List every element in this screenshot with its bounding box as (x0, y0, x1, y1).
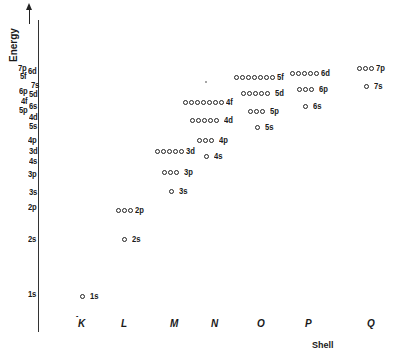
orbital-circle-icon (122, 237, 127, 242)
orbital-group-6s: 6s (303, 101, 323, 111)
orbital-circle-icon (116, 208, 121, 213)
orbital-circle-icon (248, 109, 253, 114)
y-tick-label: 6s (29, 102, 37, 111)
orbital-circle-icon (168, 170, 173, 175)
orbital-circle-icon (297, 87, 302, 92)
orbital-label: 6p (319, 84, 328, 94)
y-tick-label: 6d (28, 67, 36, 76)
orbital-group-6d: 6d (290, 68, 332, 78)
orbital-circle-icon (197, 138, 202, 143)
orbital-circle-icon (303, 87, 308, 92)
orbital-circle-icon (173, 149, 178, 154)
orbital-circle-icon (196, 118, 201, 123)
orbital-group-1s: 1s (80, 291, 100, 301)
orbital-group-4f: 4f (183, 97, 234, 107)
orbital-circle-icon (308, 71, 313, 76)
shell-label-N: N (211, 318, 218, 329)
orbital-circle-icon (202, 118, 207, 123)
orbital-label: 7p (376, 63, 385, 73)
orbital-circle-icon (167, 149, 172, 154)
orbital-circle-icon (122, 208, 127, 213)
orbital-label: 4d (224, 115, 233, 125)
orbital-label: 3s (179, 186, 188, 196)
orbital-circle-icon (204, 154, 209, 159)
orbital-circle-icon (303, 104, 308, 109)
orbital-group-5p: 5p (248, 106, 281, 116)
orbital-circle-icon (190, 118, 195, 123)
orbital-circle-icon (128, 208, 133, 213)
orbital-label: 4f (226, 97, 233, 107)
y-tick-label: 4p (28, 136, 36, 145)
orbital-label: 6d (321, 68, 330, 78)
orbital-label: 5s (265, 122, 274, 132)
orbital-group-4p: 4p (197, 135, 230, 145)
orbital-circle-icon (265, 91, 270, 96)
orbital-label: 4p (219, 135, 228, 145)
orbital-group-5d: 5d (241, 88, 286, 98)
orbital-circle-icon (247, 91, 252, 96)
orbital-circle-icon (161, 149, 166, 154)
orbital-circle-icon (270, 75, 275, 80)
orbital-circle-icon (189, 100, 194, 105)
energy-arrow-shaft (29, 8, 30, 24)
orbital-group-3s: 3s (169, 186, 189, 196)
orbital-group-6p: 6p (297, 84, 330, 94)
orbital-label: 2p (135, 205, 144, 215)
y-tick-label: 5s (29, 122, 37, 131)
orbital-circle-icon (357, 66, 362, 71)
orbital-group-3p: 3p (162, 167, 195, 177)
y-axis-line (38, 20, 39, 332)
orbital-circle-icon (241, 91, 246, 96)
orbital-circle-icon (234, 75, 239, 80)
orbital-label: 7s (374, 81, 383, 91)
y-axis-label: Energy (8, 28, 19, 62)
y-tick-label: 2p (28, 203, 36, 212)
orbital-circle-icon (209, 138, 214, 143)
shell-label-O: O (257, 318, 265, 329)
orbital-circle-icon (253, 91, 258, 96)
orbital-label: 1s (90, 291, 99, 301)
y-tick-label: 5p (19, 106, 27, 115)
orbital-group-7s: 7s (364, 81, 384, 91)
orbital-label: 5p (270, 106, 279, 116)
orbital-circle-icon (207, 100, 212, 105)
y-tick-label: 1s (28, 290, 36, 299)
orbital-circle-icon (155, 149, 160, 154)
orbital-group-2p: 2p (116, 205, 146, 215)
y-tick-label: 2s (28, 235, 36, 244)
orbital-group-7p: 7p (357, 63, 387, 73)
stray-dot (205, 81, 207, 83)
orbital-circle-icon (302, 71, 307, 76)
orbital-circle-icon (309, 87, 314, 92)
shell-label-K: K (78, 318, 85, 329)
orbital-circle-icon (169, 189, 174, 194)
orbital-label: 5f (277, 72, 284, 82)
orbital-circle-icon (296, 71, 301, 76)
orbital-group-5f: 5f (234, 72, 285, 82)
orbital-circle-icon (258, 75, 263, 80)
orbital-circle-icon (203, 138, 208, 143)
orbital-circle-icon (290, 71, 295, 76)
orbital-circle-icon (314, 71, 319, 76)
orbital-circle-icon (369, 66, 374, 71)
orbital-circle-icon (179, 149, 184, 154)
orbital-group-3d: 3d (155, 146, 197, 156)
shell-label-L: L (121, 318, 127, 329)
y-tick-label: 4s (29, 157, 37, 166)
orbital-circle-icon (260, 109, 265, 114)
orbital-label: 3p (184, 167, 193, 177)
orbital-circle-icon (363, 66, 368, 71)
orbital-circle-icon (254, 109, 259, 114)
orbital-circle-icon (183, 100, 188, 105)
shell-label-Q: Q (367, 318, 375, 329)
orbital-circle-icon (219, 100, 224, 105)
y-tick-label: 3d (29, 147, 37, 156)
orbital-circle-icon (255, 125, 260, 130)
orbital-label: 5d (275, 88, 284, 98)
orbital-circle-icon (246, 75, 251, 80)
orbital-group-4d: 4d (190, 115, 235, 125)
orbital-circle-icon (252, 75, 257, 80)
orbital-circle-icon (80, 294, 85, 299)
y-tick-label: 3s (29, 188, 37, 197)
orbital-circle-icon (174, 170, 179, 175)
